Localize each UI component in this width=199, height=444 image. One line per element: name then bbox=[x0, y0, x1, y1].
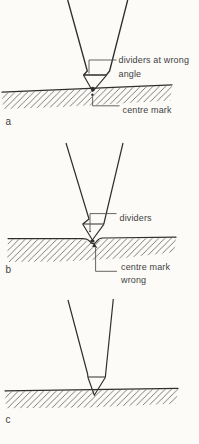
figure-c: c bbox=[5, 299, 178, 425]
figure-label-a: a bbox=[6, 116, 12, 127]
centre-mark-dot bbox=[91, 94, 93, 96]
annotation-dividers-wrong-angle-line2: angle bbox=[119, 69, 142, 79]
divider-legs bbox=[66, 143, 123, 224]
point-tip-blob bbox=[91, 87, 95, 91]
leader-end-dot bbox=[89, 230, 91, 232]
point-tip-blob bbox=[90, 239, 94, 242]
annotation-dividers: dividers bbox=[120, 213, 153, 223]
figure-b: dividers centre mark wrong b bbox=[6, 143, 177, 285]
annotation-centre-mark-wrong-line2: wrong bbox=[120, 275, 146, 285]
divider-legs bbox=[68, 299, 113, 377]
technical-diagram-page: dividers at wrong angle centre mark a di… bbox=[0, 0, 199, 444]
figure-label-c: c bbox=[6, 414, 11, 425]
figure-a: dividers at wrong angle centre mark a bbox=[2, 0, 189, 127]
hatched-section bbox=[5, 389, 178, 408]
divider-point-cone bbox=[83, 224, 104, 240]
annotation-centre-mark: centre mark bbox=[123, 105, 173, 115]
annotation-centre-mark-wrong-line1: centre mark bbox=[121, 262, 171, 272]
dividers-centre-mark-diagram: dividers at wrong angle centre mark a di… bbox=[0, 0, 199, 444]
figure-label-b: b bbox=[6, 264, 12, 275]
annotation-dividers-wrong-angle-line1: dividers at wrong bbox=[119, 55, 190, 65]
leader-line-dividers bbox=[90, 214, 117, 231]
